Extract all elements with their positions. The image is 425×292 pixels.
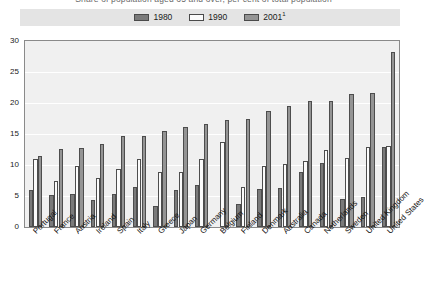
y-axis: 051015202530 — [0, 40, 22, 228]
bar-france-2001 — [59, 149, 63, 227]
y-tick-label-10: 10 — [10, 161, 19, 169]
y-tick-label-25: 25 — [10, 68, 19, 76]
y-tick-label-15: 15 — [10, 130, 19, 138]
legend-swatch-2001 — [244, 14, 259, 21]
y-tick-label-30: 30 — [10, 37, 19, 45]
legend-item-1990: 1990 — [189, 13, 227, 22]
x-axis-labels: PortugalFranceAustriaIrelandSpainItalyGr… — [25, 230, 399, 292]
legend-swatch-1990 — [189, 14, 204, 21]
legend-swatch-1980 — [134, 14, 149, 21]
bar-group-austria — [70, 41, 83, 227]
bar-ireland-2001 — [100, 144, 104, 227]
legend-label-1990: 1990 — [208, 13, 227, 22]
bar-group-germany — [195, 41, 208, 227]
y-tick-label-5: 5 — [15, 192, 19, 200]
bar-spain-2001 — [121, 136, 125, 227]
bar-united-kingdom-2001 — [370, 93, 374, 227]
legend-label-1980: 1980 — [153, 13, 172, 22]
legend-item-2001: 20011 — [244, 13, 285, 22]
bars-layer — [25, 41, 399, 227]
legend-item-1980: 1980 — [134, 13, 172, 22]
bar-italy-2001 — [142, 136, 146, 227]
bar-denmark-2001 — [266, 111, 270, 227]
bar-group-italy — [133, 41, 146, 227]
bar-finland-2001 — [246, 119, 250, 228]
y-tick-label-0: 0 — [15, 223, 19, 231]
bar-group-japan — [174, 41, 187, 227]
bar-group-france — [49, 41, 62, 227]
bar-greece-2001 — [162, 131, 166, 227]
bar-group-canada — [299, 41, 312, 227]
bar-japan-2001 — [183, 127, 187, 227]
bar-group-belgium — [216, 41, 229, 227]
bar-portugal-2001 — [38, 156, 42, 227]
bar-group-ireland — [91, 41, 104, 227]
bar-group-united-kingdom — [361, 41, 374, 227]
bar-group-netherlands — [320, 41, 333, 227]
bar-group-finland — [236, 41, 249, 227]
bar-group-denmark — [257, 41, 270, 227]
legend-label-2001: 20011 — [263, 13, 285, 22]
legend-footnote-marker: 1 — [282, 11, 285, 17]
y-tick-label-20: 20 — [10, 99, 19, 107]
bar-australia-2001 — [287, 106, 291, 227]
bar-group-australia — [278, 41, 291, 227]
bar-austria-2001 — [79, 148, 83, 227]
bar-netherlands-2001 — [329, 101, 333, 227]
chart-legend: 1980199020011 — [20, 9, 400, 26]
bar-group-portugal — [29, 41, 42, 227]
top-caption: Share of population aged 65 and over, pe… — [0, 0, 407, 4]
bar-germany-2001 — [204, 124, 208, 227]
bar-canada-2001 — [308, 101, 312, 227]
bar-group-greece — [153, 41, 166, 227]
bar-group-spain — [112, 41, 125, 227]
